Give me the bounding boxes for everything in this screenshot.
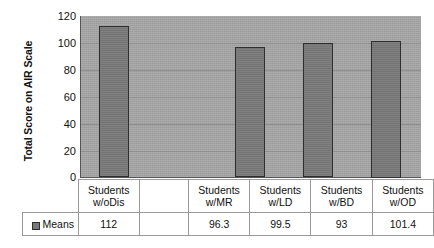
y-tick-label-100: 100 (44, 38, 76, 49)
category-line-4b: w/LD (268, 196, 292, 208)
value-cell-2-blank (139, 213, 188, 236)
bar-students-wmr[interactable] (235, 47, 265, 177)
value-cell-6: 101.4 (372, 213, 433, 236)
table-corner-cell (23, 180, 79, 213)
gridline-100 (81, 43, 421, 44)
category-cell-5: Students w/BD (311, 180, 372, 213)
category-line-3b: w/MR (206, 196, 233, 208)
category-cell-3: Students w/MR (188, 180, 249, 213)
y-tick-label-20: 20 (44, 146, 76, 157)
y-tick-label-60: 60 (44, 92, 76, 103)
square-swatch-icon (32, 222, 40, 230)
category-cell-4: Students w/LD (250, 180, 311, 213)
table-row-categories: Students w/oDis Students w/MR Students w… (23, 180, 434, 213)
category-line-3a: Students (198, 184, 239, 196)
y-tick-label-80: 80 (44, 65, 76, 76)
legend-label: Means (43, 218, 75, 230)
category-line-1a: Students (88, 184, 129, 196)
bar-students-wodis[interactable] (99, 26, 129, 177)
bar-students-wbd[interactable] (371, 51, 401, 177)
category-line-6a: Students (382, 184, 423, 196)
y-axis-title: Total Score on AIR Scale (22, 11, 34, 191)
category-line-4a: Students (260, 184, 301, 196)
y-tick-label-40: 40 (44, 119, 76, 130)
value-cell-4: 99.5 (250, 213, 311, 236)
plot-area (80, 16, 421, 178)
value-cell-1: 112 (78, 213, 139, 236)
category-line-6b: w/OD (390, 196, 416, 208)
category-line-5a: Students (321, 184, 362, 196)
category-cell-6: Students w/OD (372, 180, 433, 213)
bar-students-wld[interactable] (303, 43, 333, 177)
value-cell-3: 96.3 (188, 213, 249, 236)
data-table: Students w/oDis Students w/MR Students w… (22, 179, 434, 236)
table-row-values: Means 112 96.3 99.5 93 101.4 (23, 213, 434, 236)
category-cell-1: Students w/oDis (78, 180, 139, 213)
legend-entry-means: Means (23, 213, 79, 236)
category-line-1b: w/oDis (93, 196, 125, 208)
value-cell-5: 93 (311, 213, 372, 236)
category-cell-2-blank (139, 180, 188, 213)
y-tick-label-120: 120 (44, 11, 76, 22)
chart-figure: Total Score on AIR Scale 120 100 80 60 4… (0, 0, 434, 248)
category-line-5b: w/BD (329, 196, 354, 208)
